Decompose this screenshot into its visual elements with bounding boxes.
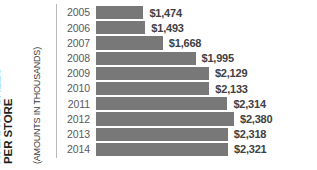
- bar: [96, 52, 196, 65]
- chart-axis-title: AVERAGE SALES PER STORE: [0, 68, 14, 164]
- bar-track: $1,995: [96, 52, 317, 65]
- year-label: 2007: [58, 38, 96, 49]
- bar-row: 2011$2,314: [58, 97, 317, 110]
- bar-rows-container: 2005$1,4742006$1,4932007$1,6682008$1,995…: [58, 6, 317, 158]
- bar-track: $1,668: [96, 36, 317, 49]
- bar: [96, 128, 228, 141]
- year-label: 2013: [58, 129, 96, 140]
- year-label: 2009: [58, 68, 96, 79]
- bar-track: $2,129: [96, 67, 317, 80]
- bar-track: $2,133: [96, 82, 317, 95]
- axis-divider-line: [56, 4, 57, 158]
- year-label: 2014: [58, 144, 96, 155]
- year-label: 2008: [58, 53, 96, 64]
- bar-value-label: $2,321: [234, 144, 266, 155]
- bar-track: $2,314: [96, 97, 317, 110]
- bar-row: 2005$1,474: [58, 6, 317, 19]
- axis-title-line-2: PER STORE: [3, 68, 15, 164]
- bar-row: 2012$2,380: [58, 112, 317, 125]
- bar-row: 2006$1,493: [58, 21, 317, 34]
- bar-row: 2008$1,995: [58, 52, 317, 65]
- bar: [96, 21, 145, 34]
- bar: [96, 36, 163, 49]
- year-label: 2011: [58, 99, 96, 110]
- year-label: 2006: [58, 23, 96, 34]
- bar-row: 2014$2,321: [58, 143, 317, 156]
- bar-value-label: $1,493: [151, 22, 183, 33]
- bar-value-label: $2,318: [234, 129, 266, 140]
- year-label: 2012: [58, 114, 96, 125]
- bar-row: 2007$1,668: [58, 36, 317, 49]
- bar: [96, 82, 209, 95]
- bar-value-label: $2,314: [233, 98, 265, 109]
- bar-value-label: $2,133: [215, 83, 247, 94]
- y-axis-title-block: AVERAGE SALES PER STORE (AMOUNTS IN THOU…: [0, 0, 56, 170]
- bar-value-label: $1,668: [169, 38, 201, 49]
- average-sales-per-store-chart: AVERAGE SALES PER STORE (AMOUNTS IN THOU…: [0, 0, 317, 170]
- bar-row: 2009$2,129: [58, 67, 317, 80]
- bar: [96, 6, 143, 19]
- chart-axis-subtitle: (AMOUNTS IN THOUSANDS): [33, 47, 42, 164]
- bar-track: $2,321: [96, 143, 317, 156]
- bar: [96, 143, 228, 156]
- bar-value-label: $2,129: [215, 68, 247, 79]
- bar-value-label: $1,474: [149, 7, 181, 18]
- bar-row: 2010$2,133: [58, 82, 317, 95]
- bar-track: $2,380: [96, 112, 317, 125]
- bar-track: $1,493: [96, 21, 317, 34]
- year-label: 2010: [58, 83, 96, 94]
- bar-track: $1,474: [96, 6, 317, 19]
- bar: [96, 97, 227, 110]
- bar-track: $2,318: [96, 128, 317, 141]
- bar: [96, 67, 209, 80]
- bar-value-label: $1,995: [202, 53, 234, 64]
- bar-row: 2013$2,318: [58, 128, 317, 141]
- year-label: 2005: [58, 7, 96, 18]
- bar: [96, 112, 234, 125]
- bar-value-label: $2,380: [240, 113, 272, 124]
